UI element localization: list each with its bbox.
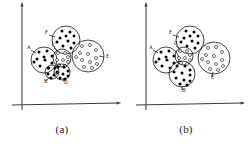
data-point-filled <box>43 56 46 59</box>
data-point-filled <box>67 40 70 43</box>
data-point-open <box>215 63 218 66</box>
data-point-open <box>221 51 224 54</box>
data-point-filled <box>73 42 76 45</box>
cluster-leader-line-c <box>54 48 58 51</box>
data-point-filled <box>183 79 186 82</box>
data-point-filled <box>166 59 169 62</box>
data-point-filled <box>189 69 192 72</box>
data-point-filled <box>181 72 184 75</box>
data-point-open <box>178 57 181 60</box>
data-point-filled <box>70 47 73 50</box>
data-point-filled <box>62 73 65 76</box>
data-point-open <box>67 56 70 59</box>
data-point-filled <box>69 31 72 34</box>
cluster-group-a: A <box>149 44 179 73</box>
data-point-open <box>201 58 204 61</box>
data-point-filled <box>184 65 187 68</box>
data-point-open <box>207 61 210 64</box>
data-point-filled <box>179 83 182 86</box>
data-point-open <box>64 52 67 55</box>
data-point-filled <box>189 74 192 77</box>
data-point-open <box>62 59 65 62</box>
data-point-open <box>75 56 78 59</box>
cluster-label-c: C <box>52 42 56 48</box>
y-axis-arrowhead <box>144 2 147 7</box>
data-point-filled <box>54 67 57 70</box>
data-point-open <box>81 45 84 48</box>
cluster-label-e: E <box>106 53 109 59</box>
data-point-filled <box>67 70 70 73</box>
data-point-filled <box>175 77 178 80</box>
data-point-open <box>56 59 59 62</box>
data-point-filled <box>160 51 163 54</box>
data-point-filled <box>51 62 54 65</box>
data-point-filled <box>197 35 200 38</box>
cluster-group-e: E <box>72 40 109 72</box>
cluster-label-f: F <box>169 29 172 35</box>
data-point-filled <box>168 50 171 53</box>
data-point-open <box>221 59 224 62</box>
data-point-filled <box>189 35 192 38</box>
data-point-filled <box>50 77 53 80</box>
data-point-open <box>67 61 70 64</box>
data-point-open <box>189 59 192 62</box>
data-point-filled <box>161 65 164 68</box>
data-point-filled <box>53 74 56 77</box>
data-point-open <box>83 66 86 69</box>
y-axis-arrowhead <box>20 2 23 7</box>
data-point-filled <box>173 71 176 74</box>
data-point-open <box>205 54 208 57</box>
data-point-filled <box>48 67 51 70</box>
cluster-figure: FEACDB (a) FEACB (b) <box>0 0 248 154</box>
data-point-open <box>186 50 189 53</box>
data-point-filled <box>176 65 179 68</box>
cluster-label-a: A <box>149 44 153 50</box>
plot-b: FEACB <box>124 0 248 125</box>
data-point-open <box>213 55 216 58</box>
data-point-filled <box>61 30 64 33</box>
data-point-open <box>91 67 94 70</box>
cluster-group-f: F <box>45 26 80 54</box>
cluster-group-b: B <box>44 65 59 84</box>
data-point-filled <box>193 31 196 34</box>
data-point-open <box>209 68 212 71</box>
data-point-filled <box>185 30 188 33</box>
data-point-open <box>89 44 92 47</box>
x-axis-line <box>136 103 242 105</box>
cluster-label-b: B <box>44 78 48 84</box>
data-point-filled <box>63 66 66 69</box>
caption-a: (a) <box>0 123 124 135</box>
data-point-filled <box>64 78 67 81</box>
data-point-open <box>96 63 99 66</box>
data-point-filled <box>39 65 42 68</box>
data-point-open <box>184 57 187 60</box>
plot-a: FEACDB <box>0 0 124 125</box>
data-point-open <box>222 65 225 68</box>
data-point-open <box>89 61 92 64</box>
caption-b: (b) <box>124 123 248 135</box>
x-axis-line <box>12 103 118 105</box>
data-point-filled <box>67 75 70 78</box>
data-point-filled <box>183 37 186 40</box>
data-point-filled <box>62 45 65 48</box>
data-point-filled <box>73 35 76 38</box>
data-point-filled <box>46 50 49 53</box>
x-axis-arrowhead <box>117 101 122 104</box>
data-point-filled <box>155 61 158 64</box>
data-point-open <box>215 46 218 49</box>
cluster-label-f: F <box>45 29 48 35</box>
data-point-filled <box>59 77 62 80</box>
data-point-filled <box>194 47 197 50</box>
data-point-filled <box>186 84 189 87</box>
cluster-label-a: A <box>27 44 31 50</box>
data-point-open <box>95 57 98 60</box>
data-point-filled <box>65 35 68 38</box>
data-point-open <box>180 62 183 65</box>
data-point-filled <box>59 37 62 40</box>
cluster-leader-line-e <box>99 56 104 57</box>
data-point-filled <box>197 42 200 45</box>
data-point-filled <box>56 41 59 44</box>
data-point-open <box>179 50 182 53</box>
data-point-filled <box>44 59 47 62</box>
data-point-filled <box>191 40 194 43</box>
